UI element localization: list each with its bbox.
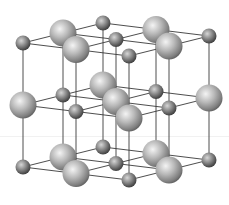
small-ion-sphere: [56, 88, 71, 103]
small-ion-sphere: [149, 84, 164, 99]
small-ion-sphere: [16, 160, 31, 175]
small-ion-sphere: [122, 173, 137, 188]
large-ion-sphere: [63, 160, 90, 187]
small-ion-sphere: [202, 29, 217, 44]
large-ion-sphere: [156, 33, 183, 60]
small-ion-sphere: [122, 49, 137, 64]
ion-spheres: [10, 16, 223, 188]
small-ion-sphere: [162, 101, 177, 116]
large-ion-sphere: [156, 157, 183, 184]
large-ion-sphere: [116, 105, 143, 132]
small-ion-sphere: [69, 104, 84, 119]
large-ion-sphere: [10, 92, 37, 119]
small-ion-sphere: [109, 156, 124, 171]
small-ion-sphere: [96, 140, 111, 155]
small-ion-sphere: [96, 16, 111, 31]
small-ion-sphere: [109, 32, 124, 47]
small-ion-sphere: [202, 153, 217, 168]
large-ion-sphere: [63, 36, 90, 63]
large-ion-sphere: [196, 85, 223, 112]
small-ion-sphere: [16, 36, 31, 51]
crystal-lattice: [0, 0, 229, 205]
